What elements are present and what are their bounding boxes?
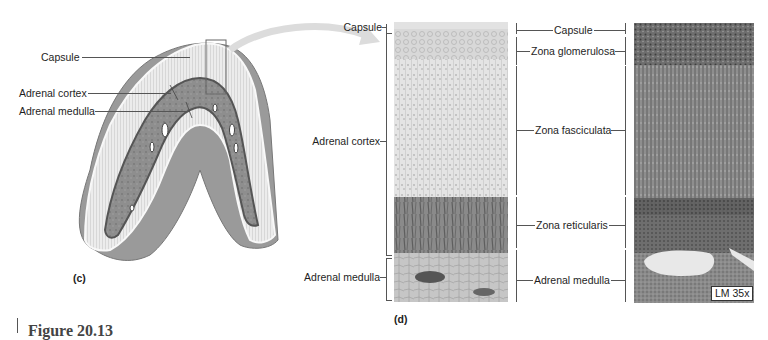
zone-label-zona-reticularis: Zona reticularis xyxy=(536,219,608,231)
leader-reticularis-left xyxy=(517,225,535,226)
bracket-tick xyxy=(386,255,392,256)
leader-fasciculata-right xyxy=(611,130,625,131)
label-capsule-c: Capsule xyxy=(41,51,80,63)
bracket-tick xyxy=(386,258,392,259)
zone-label-adrenal-medulla: Adrenal medulla xyxy=(534,274,610,286)
bracket-medulla-right xyxy=(625,250,626,302)
leader-adrenal-cortex-c xyxy=(88,93,171,94)
bracket-adrenal-cortex-d-left xyxy=(386,33,387,255)
leader-medulla-right xyxy=(611,280,625,281)
cortex-layers-illustration xyxy=(394,22,508,302)
label-capsule-d-left: Capsule xyxy=(343,21,382,33)
light-micrograph xyxy=(634,23,754,303)
caption-bar xyxy=(17,318,18,333)
leader-capsule-c xyxy=(82,57,190,58)
leader-glomerulosa-left xyxy=(517,51,530,52)
bracket-tick xyxy=(386,33,392,34)
magnification-label: LM 35x xyxy=(711,286,753,301)
bracket-fasciculata-right xyxy=(625,66,626,195)
bracket-reticularis-right xyxy=(625,197,626,248)
figure-caption: Figure 20.13 xyxy=(28,322,113,340)
bracket-adrenal-medulla-d-left xyxy=(386,258,387,300)
bracket-capsule-right xyxy=(625,23,626,34)
bracket-tick xyxy=(386,300,392,301)
leader-adrenal-medulla-c xyxy=(95,111,189,112)
panel-letter-d: (d) xyxy=(394,313,407,325)
label-adrenal-cortex-d-left: Adrenal cortex xyxy=(312,135,380,147)
label-adrenal-cortex-c: Adrenal cortex xyxy=(19,87,87,99)
leader-fasciculata-left xyxy=(517,130,534,131)
bracket-glomerulosa-right xyxy=(625,37,626,65)
label-adrenal-medulla-d-left: Adrenal medulla xyxy=(304,271,380,283)
leader-glomerulosa-right xyxy=(615,51,625,52)
zone-label-zona-glomerulosa: Zona glomerulosa xyxy=(531,45,615,57)
leader-reticularis-right xyxy=(609,225,625,226)
bracket-medulla-left xyxy=(516,250,517,302)
zone-label-zona-fasciculata: Zona fasciculata xyxy=(535,124,611,136)
label-adrenal-medulla-c: Adrenal medulla xyxy=(19,105,95,117)
bracket-reticularis-left xyxy=(516,197,517,248)
leader-capsule-right xyxy=(594,30,625,31)
zone-label-capsule: Capsule xyxy=(554,24,593,36)
bracket-capsule-left xyxy=(516,23,517,34)
leader-capsule-left xyxy=(517,30,553,31)
panel-letter-c: (c) xyxy=(73,272,86,284)
leader-medulla-left xyxy=(517,280,533,281)
